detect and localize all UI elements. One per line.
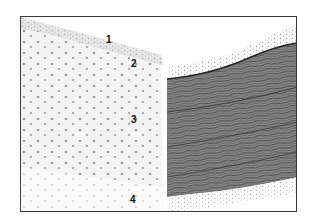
layer-label-2: 2: [131, 59, 137, 69]
layer-label-4: 4: [130, 195, 136, 205]
layer-label-1: 1: [106, 35, 112, 45]
left-panel: [21, 17, 163, 212]
right-panel: [167, 25, 297, 212]
micrograph-panels: [21, 17, 297, 212]
figure-frame: 1 2 3 4: [20, 16, 297, 212]
layer-label-3: 3: [131, 115, 137, 125]
